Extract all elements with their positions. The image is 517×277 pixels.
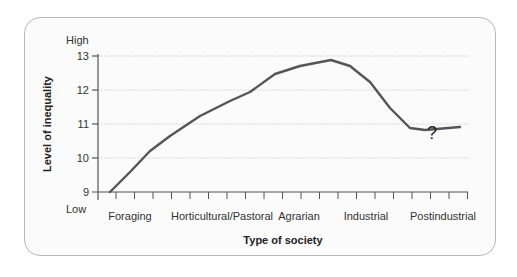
y-tick-10: 10: [77, 152, 89, 164]
y-tick-12: 12: [77, 84, 89, 96]
y-tick-11: 11: [78, 118, 89, 130]
x-category-labels: Foraging Horticultural/Pastoral Agrarian…: [108, 210, 476, 222]
y-axis-title: Level of inequality: [41, 75, 53, 172]
x-axis-title: Type of society: [243, 234, 323, 246]
y-tick-9: 9: [83, 186, 89, 198]
inequality-line: [110, 60, 460, 192]
category-industrial: Industrial: [344, 210, 389, 222]
line-chart: 13 12 11 10 9 High Low Level of inequali…: [0, 0, 517, 277]
category-agrarian: Agrarian: [278, 210, 320, 222]
category-foraging: Foraging: [108, 210, 151, 222]
y-high-label: High: [66, 34, 89, 46]
category-horticultural-pastoral: Horticultural/Pastoral: [171, 210, 273, 222]
x-ticks: [116, 192, 468, 199]
y-tick-labels: 13 12 11 10 9: [77, 50, 89, 198]
question-mark-annotation: ?: [427, 123, 437, 143]
y-low-label: Low: [66, 203, 86, 215]
axes: [92, 54, 468, 200]
y-tick-13: 13: [77, 50, 89, 62]
category-postindustrial: Postindustrial: [410, 210, 476, 222]
